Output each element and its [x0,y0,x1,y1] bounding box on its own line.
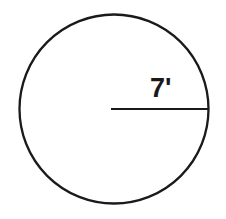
circle-radius-figure: 7' [0,0,226,219]
circle-diagram-canvas: 7' [0,0,226,219]
radius-label: 7' [150,73,171,103]
